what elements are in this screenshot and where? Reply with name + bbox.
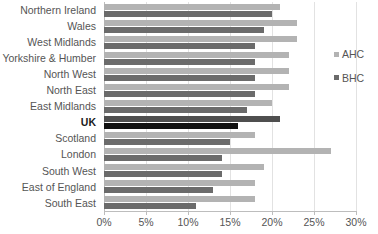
category-label: East of England: [0, 179, 100, 195]
category-label: UK: [0, 115, 100, 131]
bar-ahc: [104, 180, 255, 186]
bar-bhc: [104, 123, 238, 129]
bar-group: [104, 147, 356, 163]
bar-group: [104, 131, 356, 147]
bar-bhc: [104, 91, 255, 97]
x-axis-tick: [146, 211, 147, 215]
category-label: South East: [0, 195, 100, 211]
x-axis-tick: [314, 211, 315, 215]
bar-bhc: [104, 11, 272, 17]
bar-group: [104, 163, 356, 179]
x-axis-tick-label: 0%: [96, 217, 111, 228]
gridline: [356, 2, 357, 211]
bar-group: [104, 18, 356, 34]
category-label: Yorkshire & Humber: [0, 50, 100, 66]
category-label: Scotland: [0, 131, 100, 147]
bar-group: [104, 98, 356, 114]
legend-item[interactable]: BHC: [334, 73, 378, 84]
bar-ahc: [104, 148, 331, 154]
x-axis-tick-label: 25%: [303, 217, 324, 228]
bar-chart: Northern IrelandWalesWest MidlandsYorksh…: [0, 0, 378, 234]
bar-ahc: [104, 116, 280, 122]
category-label: North West: [0, 66, 100, 82]
category-axis: Northern IrelandWalesWest MidlandsYorksh…: [0, 2, 100, 211]
legend-swatch-bhc: [334, 75, 339, 80]
bar-bhc: [104, 43, 255, 49]
x-axis-tick: [272, 211, 273, 215]
x-axis: 0%5%10%15%20%25%30%: [104, 211, 356, 234]
category-label: South West: [0, 163, 100, 179]
chart-legend: AHCBHC: [334, 49, 378, 96]
bar-ahc: [104, 20, 297, 26]
bar-bhc: [104, 107, 247, 113]
bar-group: [104, 50, 356, 66]
bar-series-container: [104, 2, 356, 211]
bar-bhc: [104, 59, 255, 65]
category-label: West Midlands: [0, 34, 100, 50]
x-axis-tick: [188, 211, 189, 215]
bar-bhc: [104, 171, 222, 177]
bar-group: [104, 195, 356, 211]
bar-ahc: [104, 196, 255, 202]
category-label: Northern Ireland: [0, 2, 100, 18]
x-axis-tick-label: 20%: [261, 217, 282, 228]
bar-ahc: [104, 52, 289, 58]
x-axis-tick: [104, 211, 105, 215]
legend-item-label: BHC: [342, 73, 364, 84]
bar-group: [104, 179, 356, 195]
bar-bhc: [104, 27, 264, 33]
category-label: North East: [0, 82, 100, 98]
bar-group: [104, 66, 356, 82]
category-label: East Midlands: [0, 98, 100, 114]
bar-ahc: [104, 164, 264, 170]
bar-bhc: [104, 75, 255, 81]
bar-bhc: [104, 187, 213, 193]
bar-ahc: [104, 84, 289, 90]
x-axis-tick: [230, 211, 231, 215]
bar-group: [104, 115, 356, 131]
bar-ahc: [104, 68, 289, 74]
bar-ahc: [104, 36, 297, 42]
bar-bhc: [104, 139, 230, 145]
bar-bhc: [104, 155, 222, 161]
x-axis-tick-label: 30%: [345, 217, 366, 228]
bar-ahc: [104, 100, 272, 106]
legend-item[interactable]: AHC: [334, 49, 378, 60]
legend-item-label: AHC: [342, 49, 364, 60]
bar-ahc: [104, 132, 255, 138]
bar-group: [104, 2, 356, 18]
bar-bhc: [104, 203, 196, 209]
x-axis-tick-label: 5%: [138, 217, 153, 228]
x-axis-tick-label: 15%: [219, 217, 240, 228]
x-axis-tick-label: 10%: [177, 217, 198, 228]
bar-group: [104, 34, 356, 50]
category-label: London: [0, 147, 100, 163]
bar-group: [104, 82, 356, 98]
category-label: Wales: [0, 18, 100, 34]
x-axis-tick: [356, 211, 357, 215]
bar-ahc: [104, 4, 280, 10]
plot-area: [104, 2, 356, 211]
legend-swatch-ahc: [334, 52, 339, 57]
